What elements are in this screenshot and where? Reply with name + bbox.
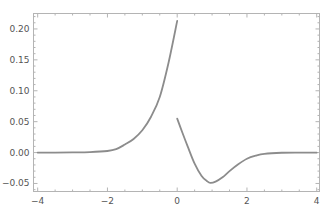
x-tick-label: −2 [101,196,114,206]
line-chart: −4−2024 −0.050.000.050.100.150.20 [0,0,329,216]
plot-frame [34,14,320,192]
y-tick-label: 0.20 [9,24,29,34]
series [38,21,317,183]
series-line-right-branch [177,119,317,183]
x-tick-label: 0 [174,196,180,206]
x-tick-label: 2 [244,196,250,206]
y-tick-labels: −0.050.000.050.100.150.20 [2,24,30,189]
y-tick-label: 0.00 [9,148,29,158]
y-tick-label: −0.05 [2,178,30,188]
x-tick-label: 4 [314,196,320,206]
series-line-left-branch [38,21,178,153]
axes [34,14,320,192]
x-tick-label: −4 [31,196,45,206]
y-tick-label: 0.15 [9,55,29,65]
y-tick-label: 0.05 [9,117,29,127]
x-tick-labels: −4−2024 [31,196,320,206]
ticks [34,14,320,192]
y-tick-label: 0.10 [9,86,29,96]
